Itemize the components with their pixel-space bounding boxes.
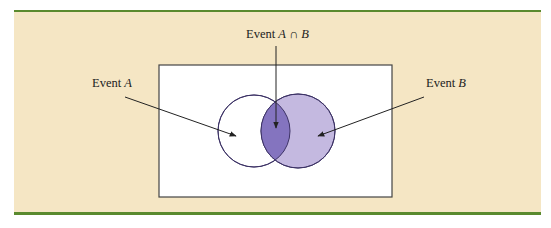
label-event-b: Event B <box>426 76 466 91</box>
label-event-a: Event A <box>92 76 132 91</box>
label-intersection: Event A ∩ B <box>246 27 309 42</box>
